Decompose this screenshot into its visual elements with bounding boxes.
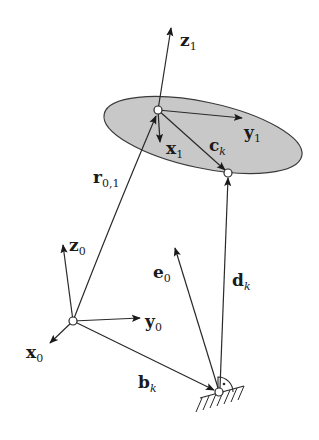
kinematic-diagram: z1 y1 x1 ck r0,1 z0 y0 x0 e0 dk bk bbox=[0, 0, 319, 440]
vector-r01 bbox=[73, 116, 156, 321]
label-y0: y0 bbox=[144, 311, 162, 334]
label-e0: e0 bbox=[153, 262, 171, 285]
vector-dk bbox=[220, 178, 228, 388]
label-z0: z0 bbox=[69, 235, 86, 258]
moving-platform bbox=[97, 82, 308, 189]
node-frame0-origin bbox=[69, 317, 77, 325]
node-frame1-origin bbox=[154, 106, 162, 114]
label-r01: r0,1 bbox=[93, 167, 119, 190]
label-bk: bk bbox=[138, 372, 157, 395]
axis-y0 bbox=[73, 318, 140, 321]
vector-e0 bbox=[175, 248, 218, 388]
label-x0: x0 bbox=[26, 342, 43, 365]
axis-x0 bbox=[50, 321, 73, 343]
label-z1: z1 bbox=[180, 30, 197, 53]
label-dk: dk bbox=[232, 270, 251, 293]
axis-z0 bbox=[63, 245, 73, 321]
node-platform-attachment bbox=[224, 169, 232, 177]
node-base-joint bbox=[215, 388, 223, 396]
